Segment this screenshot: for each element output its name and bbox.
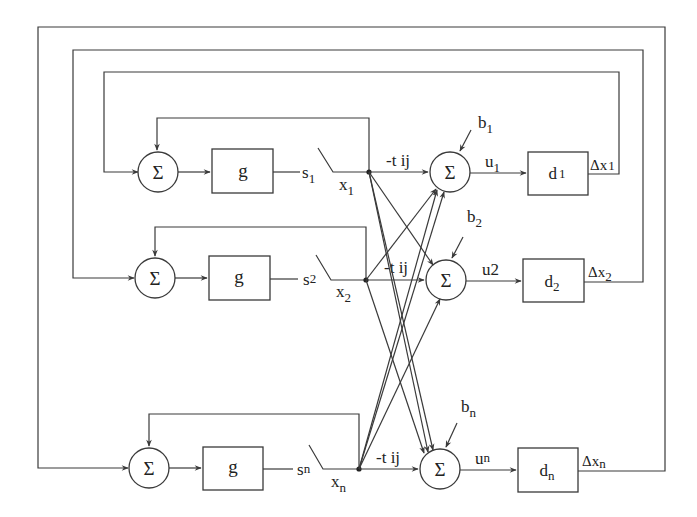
weight-label-row-1: -t ij [386, 151, 410, 170]
b1-label: b1 [478, 113, 493, 136]
cross-connections [359, 172, 444, 469]
delta-x1-label: Δx1 [590, 157, 615, 173]
xn-label: xn [331, 472, 347, 495]
input-sum-symbol-row-n: Σ [143, 458, 154, 479]
row-1: Σ g s1 x1 -t ij Σ b1 u1 d1 Δx1 [138, 113, 615, 198]
u1-label: u1 [485, 152, 500, 175]
delta-x2-label: Δx2 [588, 264, 612, 284]
g-label-row-1: g [238, 160, 248, 181]
weight-label-row-n: -t ij [376, 448, 400, 467]
bias-arrow-row-2 [452, 237, 463, 258]
g-label-row-n: g [228, 456, 238, 477]
output-sum-symbol-row-2: Σ [440, 270, 451, 291]
row-2: Σ g s2 x2 -t ij Σ b2 u2 d2 Δx2 [135, 207, 612, 305]
d-block-row-1 [528, 152, 588, 195]
cross-x2-to-sum-n [366, 280, 424, 453]
feedback-loops [38, 27, 665, 471]
neural-network-block-diagram: Σ g s1 x1 -t ij Σ b1 u1 d1 Δx1 Σ g s2 x2… [0, 0, 697, 517]
b2-label: b2 [467, 207, 482, 230]
input-sum-symbol-row-1: Σ [152, 162, 163, 183]
s1-label: s1 [302, 163, 315, 186]
bn-label: bn [461, 397, 477, 420]
s2-label: s2 [303, 270, 316, 289]
output-sum-symbol-row-1: Σ [444, 162, 455, 183]
cross-x1-to-sum-n-b [369, 172, 433, 450]
u2-label: u2 [482, 260, 499, 279]
output-sum-symbol-row-n: Σ [434, 459, 445, 480]
bias-arrow-row-n [446, 423, 457, 447]
row-n: Σ g sn xn -t ij Σ bn un dn Δxn [129, 397, 606, 495]
switch-row-2 [316, 255, 366, 280]
x2-label: x2 [336, 282, 351, 305]
delta-xn-label: Δxn [582, 453, 606, 471]
sn-label: sn [297, 460, 311, 479]
switch-row-1 [318, 148, 369, 172]
un-label: un [475, 449, 491, 468]
input-sum-symbol-row-2: Σ [149, 268, 160, 289]
feedback-loop-row-n [38, 27, 665, 471]
g-label-row-2: g [234, 266, 244, 287]
bias-arrow-row-1 [460, 130, 471, 151]
x1-label: x1 [339, 175, 354, 198]
switch-row-n [309, 445, 359, 469]
